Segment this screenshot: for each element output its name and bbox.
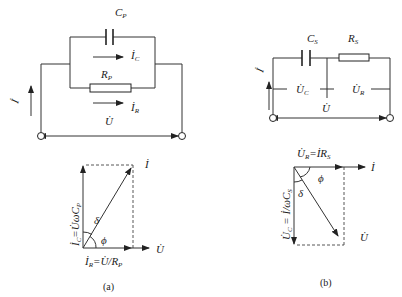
terminal-right-b-icon	[387, 115, 394, 122]
label-cs: CS	[307, 32, 318, 46]
angle-delta-arc-icon	[83, 232, 92, 235]
caption-a: (a)	[103, 281, 114, 293]
label-u-phasor-a: U̇	[156, 243, 165, 255]
wire-right-a	[155, 64, 182, 132]
angle-delta-arc-b-icon	[294, 180, 302, 182]
label-delta-a: δ	[94, 214, 100, 226]
capacitor-cp-icon	[106, 29, 113, 45]
label-ur-expr-b: U̇R=İRS	[297, 147, 331, 161]
circuit-b: CS RS U̇C U̇R U̇ İ	[253, 32, 393, 122]
resistor-rs-icon	[339, 54, 369, 61]
angle-phi-arc-icon	[90, 237, 96, 249]
label-ir: İR	[130, 101, 140, 115]
label-rp: RP	[100, 68, 113, 82]
label-u-b: U̇	[322, 102, 331, 114]
wire-left-a	[41, 64, 70, 132]
terminal-left-b-icon	[270, 115, 277, 122]
circuit-a: CP RP İC İR U̇ İ	[8, 6, 185, 140]
label-ir-expr-a: İR=U̇/RP	[84, 255, 123, 269]
caption-b: (b)	[320, 277, 332, 289]
phasor-i-resultant-arrow-icon	[83, 168, 131, 248]
label-rs: RS	[347, 32, 359, 46]
label-phi-b: ϕ	[318, 172, 324, 184]
phasor-diagram-b: İ U̇ δ ϕ U̇R=İRS U̇C = İ/ωCS (b)	[280, 147, 376, 289]
label-cp: CP	[115, 6, 127, 20]
label-delta-b: δ	[298, 187, 304, 199]
terminal-right-a-icon	[179, 133, 186, 140]
figure-canvas: CP RP İC İR U̇ İ CS RS U̇C U̇R U̇	[0, 0, 402, 297]
label-phi-a: ϕ	[101, 234, 107, 246]
label-uc-expr-b: U̇C = İ/ωCS	[280, 189, 294, 240]
label-i-phasor-a: İ	[144, 158, 150, 170]
label-i-a: İ	[8, 97, 21, 106]
label-ic: İC	[130, 49, 140, 63]
phasor-diagram-a: İ U̇ δ ϕ İC=U̇ωCP İR=U̇/RP (a)	[69, 158, 165, 293]
label-u-phasor-b: U̇	[360, 231, 369, 243]
label-ic-expr-a: İC=U̇ωCP	[69, 202, 83, 247]
label-i-phasor-b: İ	[370, 161, 376, 173]
resistor-rp-icon	[90, 84, 131, 92]
label-i-b: İ	[253, 66, 266, 75]
capacitor-cs-icon	[302, 50, 310, 66]
terminal-left-a-icon	[38, 133, 45, 140]
label-ur-b: U̇R	[352, 83, 365, 97]
label-u-a: U̇	[105, 115, 114, 127]
label-uc-b: U̇C	[296, 83, 309, 97]
angle-phi-arc-b-icon	[300, 167, 310, 177]
